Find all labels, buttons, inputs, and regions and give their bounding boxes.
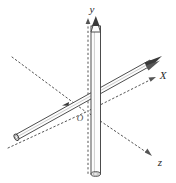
vertical-rod-body (91, 26, 101, 174)
y-axis-arrowhead (86, 18, 91, 24)
origin-label: O (77, 113, 84, 123)
axes-group (8, 18, 156, 176)
x-axis-label: X (159, 69, 168, 81)
vertical-rod (91, 16, 101, 176)
y-axis-label: y (89, 3, 95, 15)
x-axis-arrowhead (149, 77, 157, 82)
coordinate-system-diagram: y X z O (0, 0, 176, 183)
slanted-rod-direction-tick (62, 102, 69, 106)
vertical-rod-open-end-inner (93, 173, 99, 175)
slanted-rod-inner-line (17, 62, 152, 137)
figure-canvas: y X z O (0, 0, 176, 183)
z-axis-label: z (157, 156, 163, 168)
z-axis-arrowhead (145, 149, 152, 156)
vertical-rod-arrowhead (92, 16, 100, 26)
